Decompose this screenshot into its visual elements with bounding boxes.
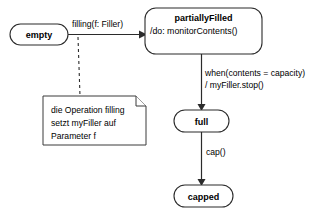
transition-partiallyfilled-to-full[interactable]: when(contents = capacity) / myFiller.sto…: [198, 54, 306, 111]
note-line-3: Parameter f: [51, 131, 97, 141]
note-line-1: die Operation filling: [51, 105, 125, 115]
note-anchor-line: [78, 37, 80, 96]
state-label-capped: capped: [188, 192, 220, 202]
note-fold-corner-icon: [136, 96, 146, 106]
state-capped[interactable]: capped: [174, 185, 233, 207]
transition-label-when-guard: when(contents = capacity): [204, 68, 305, 78]
state-activity-partiallyfilled: /do: monitorContents(): [150, 26, 238, 36]
uml-state-diagram: filling(f: Filler) when(contents = capac…: [0, 0, 334, 211]
state-label-empty: empty: [26, 30, 53, 40]
transition-label-myfiller-stop: / myFiller.stop(): [205, 80, 264, 90]
note-anchor-dashed-line: [78, 37, 80, 96]
state-label-full: full: [195, 117, 209, 127]
note-line-2: setzt myFiller auf: [51, 118, 117, 128]
diagram-canvas: filling(f: Filler) when(contents = capac…: [0, 0, 334, 211]
state-partiallyfilled[interactable]: partiallyFilled /do: monitorContents(): [145, 8, 262, 54]
transition-label-filling: filling(f: Filler): [72, 19, 123, 29]
transition-empty-to-partiallyfilled[interactable]: filling(f: Filler): [68, 19, 147, 39]
transition-full-to-capped[interactable]: cap(): [198, 132, 226, 186]
state-full[interactable]: full: [174, 110, 229, 132]
transition-label-cap: cap(): [206, 147, 226, 157]
state-label-partiallyfilled: partiallyFilled: [174, 13, 232, 23]
note-filling-operation[interactable]: die Operation filling setzt myFiller auf…: [43, 96, 146, 145]
state-empty[interactable]: empty: [10, 24, 68, 45]
